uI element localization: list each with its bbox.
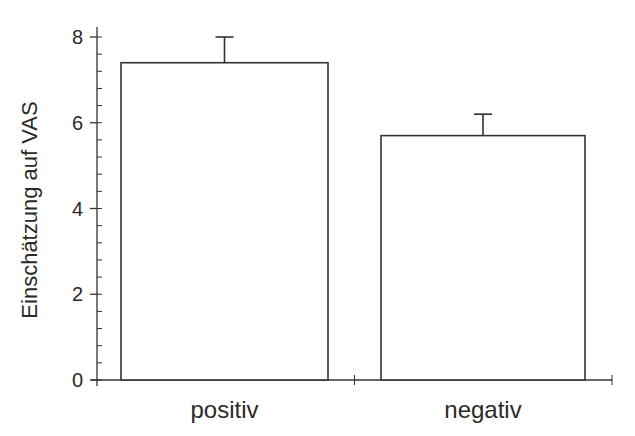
bars (121, 37, 585, 380)
y-tick-label: 6 (72, 112, 83, 134)
y-tick-label: 0 (72, 369, 83, 391)
bar-negativ (381, 136, 585, 380)
x-tick-label: positiv (190, 396, 258, 423)
bar-chart: 02468positivnegativ (0, 0, 635, 436)
y-tick-label: 4 (72, 198, 83, 220)
bar-positiv (121, 63, 328, 380)
y-tick-label: 2 (72, 283, 83, 305)
x-tick-label: negativ (444, 396, 521, 423)
y-tick-label: 8 (72, 26, 83, 48)
